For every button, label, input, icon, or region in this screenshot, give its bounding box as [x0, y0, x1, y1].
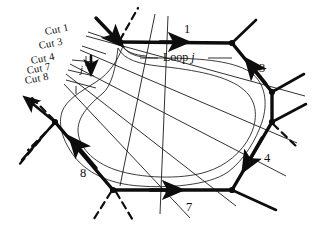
arrow-edge-4 — [246, 138, 262, 166]
cut-line-4 — [70, 64, 286, 176]
incoming-arrow-group — [96, 18, 118, 41]
leg-right-upper-out — [272, 74, 304, 92]
dash-left-mid-downleft — [28, 124, 54, 150]
leg-left-mid-up — [28, 100, 55, 122]
arrow-edge-8 — [74, 142, 96, 168]
leg-bottom-right-out — [232, 190, 276, 210]
hexagon-edges-group — [55, 42, 272, 190]
leader-cut-8 — [66, 80, 96, 88]
loop-j-label: Loop j — [163, 51, 195, 63]
dash-bottom-left-b — [116, 192, 134, 222]
leg-top-right-up — [232, 20, 256, 43]
loop-j-symbol: j — [191, 50, 194, 64]
dash-right-lower-out — [273, 124, 296, 146]
j-marker-label: j — [80, 64, 83, 75]
leg-right-lower-out — [272, 104, 306, 122]
cut-line-1 — [86, 36, 305, 96]
incoming-arrow-topleft — [96, 18, 118, 41]
edge-label-3: 3 — [259, 62, 265, 75]
loop-j-prefix: Loop — [163, 50, 188, 64]
cut-line-steep — [120, 14, 155, 186]
loop-j-inner-contour — [78, 48, 255, 177]
edge-label-7: 7 — [186, 201, 192, 214]
dash-left-mid-upleft — [30, 96, 54, 120]
dash-left-tail — [18, 140, 40, 166]
edge-label-4: 4 — [264, 152, 270, 165]
cut-lines-group — [64, 14, 305, 218]
dash-top-left-up — [120, 8, 138, 40]
dash-bottom-left-a — [92, 192, 111, 222]
edge-label-1: 1 — [184, 23, 190, 36]
cut-line-steep-2 — [160, 16, 168, 214]
edge-label-8: 8 — [80, 167, 86, 180]
figure-canvas: Cut 1 Cut 3 Cut 4 Cut 7 Cut 8 1 3 4 7 8 … — [0, 0, 323, 235]
